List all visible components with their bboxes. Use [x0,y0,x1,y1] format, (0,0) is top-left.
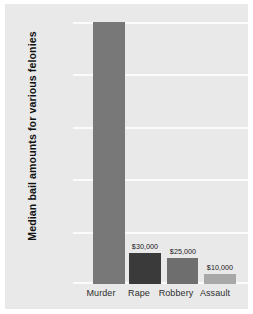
chart-canvas: Median bail amounts for various felonies… [5,4,248,309]
y-axis-ticks: $250,000 200,000 150,000 100,000 50,000 … [73,22,248,284]
chart-figure: Median bail amounts for various felonies… [0,0,253,314]
y-axis-title: Median bail amounts for various felonies [26,21,38,251]
category-label-assault: Assault [189,288,241,298]
